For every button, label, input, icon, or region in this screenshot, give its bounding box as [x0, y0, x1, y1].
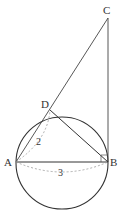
label-A: A [4, 156, 12, 168]
label-D: D [41, 98, 49, 110]
measure-AB: 3 [58, 167, 63, 178]
label-B: B [110, 156, 117, 168]
measure-AD: 2 [36, 136, 41, 147]
segment-AC [16, 18, 108, 162]
label-C: C [103, 4, 110, 16]
circle [16, 117, 108, 209]
geometry-diagram: A B C D 2 3 [0, 0, 124, 221]
